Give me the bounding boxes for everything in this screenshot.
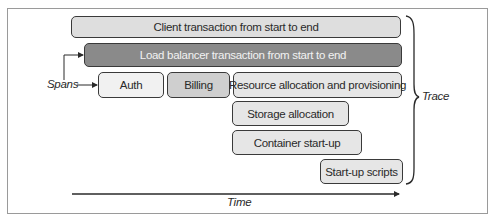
trace-label: Trace xyxy=(422,90,449,102)
time-label: Time xyxy=(227,196,251,208)
span-load-balancer-transaction: Load balancer transaction from start to … xyxy=(84,43,402,67)
span-label: Storage allocation xyxy=(247,108,334,120)
span-container-startup: Container start-up xyxy=(232,130,362,155)
span-label: Load balancer transaction from start to … xyxy=(140,49,346,61)
span-label: Container start-up xyxy=(254,137,341,149)
span-label: Billing xyxy=(184,79,213,91)
span-billing: Billing xyxy=(167,72,230,98)
spans-label: Spans xyxy=(47,78,78,90)
span-label: Resource allocation and provisioning xyxy=(229,79,406,91)
span-resource-allocation: Resource allocation and provisioning xyxy=(233,72,402,98)
span-label: Auth xyxy=(120,79,142,91)
span-label: Start-up scripts xyxy=(325,166,398,178)
span-client-transaction: Client transaction from start to end xyxy=(71,16,401,38)
span-storage-allocation: Storage allocation xyxy=(232,101,349,126)
span-auth: Auth xyxy=(98,72,164,98)
span-label: Client transaction from start to end xyxy=(154,21,319,33)
span-startup-scripts: Start-up scripts xyxy=(320,159,403,184)
